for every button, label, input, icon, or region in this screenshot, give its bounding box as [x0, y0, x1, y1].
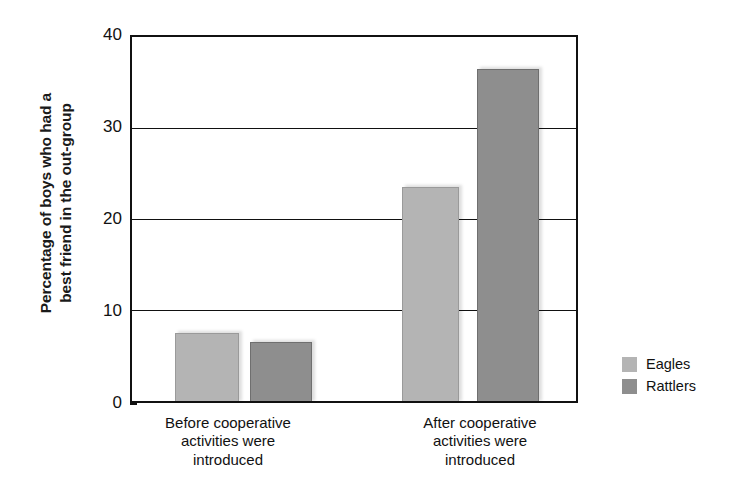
x-group-label-before-line-3: introduced — [113, 451, 343, 469]
legend-swatch-icon-rattlers — [622, 379, 637, 394]
x-group-label-after-line-2: activities were — [365, 432, 595, 450]
x-group-label-after-line-3: introduced — [365, 451, 595, 469]
y-axis-title-line-1: Percentage of boys who had a — [36, 93, 56, 313]
bar-chart: Percentage of boys who had a best friend… — [0, 0, 734, 500]
legend: Eagles Rattlers — [622, 356, 696, 394]
legend-swatch-icon-eagles — [622, 357, 637, 372]
y-axis-title: Percentage of boys who had a best friend… — [28, 3, 84, 403]
legend-item-eagles: Eagles — [622, 356, 696, 372]
y-tick-label-40: 40 — [82, 26, 122, 43]
y-tick-mark-0 — [130, 403, 137, 405]
y-axis-title-line-2: best friend in the out-group — [56, 103, 76, 303]
bar-eagles-after — [402, 187, 459, 401]
legend-label-rattlers: Rattlers — [646, 378, 696, 394]
y-tick-label-20: 20 — [82, 210, 122, 227]
x-group-label-before: Before cooperative activities were intro… — [113, 414, 343, 469]
y-axis-ticks: 40 30 20 10 0 — [78, 35, 122, 403]
y-tick-label-30: 30 — [82, 118, 122, 135]
bar-eagles-before — [175, 333, 239, 401]
y-tick-label-0: 0 — [82, 394, 122, 411]
legend-item-rattlers: Rattlers — [622, 378, 696, 394]
bar-rattlers-before — [250, 342, 312, 401]
x-group-label-after-line-1: After cooperative — [365, 414, 595, 432]
legend-label-eagles: Eagles — [646, 356, 690, 372]
x-group-label-after: After cooperative activities were introd… — [365, 414, 595, 469]
x-group-label-before-line-2: activities were — [113, 432, 343, 450]
bar-rattlers-after — [477, 69, 539, 401]
x-group-label-before-line-1: Before cooperative — [113, 414, 343, 432]
y-tick-label-10: 10 — [82, 302, 122, 319]
plot-area — [130, 35, 578, 403]
